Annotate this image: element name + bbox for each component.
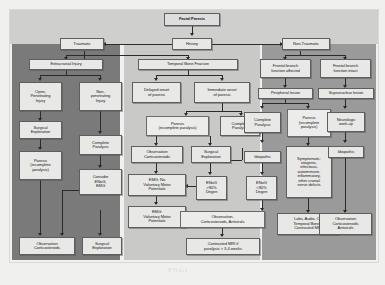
node-surgical-exploration-3[interactable]: Surgical Exploration	[191, 146, 231, 163]
node-supranuclear-lesion[interactable]: Supranuclear lesion	[318, 88, 374, 99]
node-enog-high-degen[interactable]: ENoG >90% Degen	[196, 176, 227, 200]
watermark: PNGI	[168, 266, 188, 274]
node-paresis-incomplete-3[interactable]: Paresis (incomplete paralysis)	[287, 109, 331, 137]
node-emg-voluntary[interactable]: EMG: Voluntary Motor Potentials	[128, 206, 186, 228]
arrow-nonpen-complete	[98, 131, 102, 134]
node-frontal-branch-intact[interactable]: Frontal branch function intact	[320, 59, 371, 78]
arrow-neuro-idiopathic2	[343, 140, 347, 143]
edge-immediate-paresis	[222, 103, 223, 111]
edge-nonpen-complete	[100, 111, 101, 133]
node-observation-corticosteroids-antivirals-1[interactable]: Observation, Corticosteroids, Antivirals	[180, 211, 265, 228]
edge-extracranial-stem	[66, 70, 67, 75]
node-extracranial-injury[interactable]: Extracranial Injury	[29, 59, 103, 70]
edge-nontraumatic-split	[285, 55, 345, 56]
node-history[interactable]: History	[172, 38, 212, 50]
edge-enoghigh-up-v	[242, 148, 243, 160]
node-idiopathic-2[interactable]: Idiopathic	[328, 146, 364, 158]
arrow-enog-high	[208, 172, 212, 175]
node-symptomatic-causes[interactable]: Symptomatic: otogenic, infectious, autoi…	[286, 146, 332, 198]
node-open-penetrating[interactable]: Open, Penetrating Injury	[19, 82, 62, 111]
node-paresis-incomplete-2[interactable]: Paresis (incomplete paralysis)	[146, 116, 209, 136]
edge-history-traumatic	[104, 44, 172, 45]
arrow-complete-paralysis-3	[260, 106, 264, 109]
edge-idiopathic2-obs4	[345, 158, 346, 212]
node-non-traumatic[interactable]: Non-Traumatic	[282, 38, 330, 50]
arrow-obs3-mri	[220, 234, 224, 237]
node-observation-corticosteroids-2[interactable]: Observation Corticosteroids	[131, 146, 183, 163]
node-temporal-bone-fracture[interactable]: Temporal Bone Fracture	[138, 59, 238, 70]
edge-paresis-obs	[40, 180, 41, 235]
arrow-consider-obs	[60, 233, 64, 236]
edge-temporal-split	[156, 75, 222, 76]
arrow-idiopathic1-enoglow	[260, 172, 264, 175]
edge-peripheral-split	[262, 103, 308, 104]
node-delayed-onset[interactable]: Delayed onset of paresis	[132, 82, 181, 103]
node-surgical-exploration-2[interactable]: Surgical Exploration	[82, 237, 122, 255]
edge-history-nontraumatic	[212, 44, 282, 45]
node-observation-corticosteroids-1[interactable]: Observation Corticosteroids	[19, 237, 75, 255]
arrow-root-history	[190, 33, 194, 36]
node-traumatic[interactable]: Traumatic	[60, 38, 104, 50]
arrow-paresis-obs	[38, 233, 42, 236]
node-immediate-onset[interactable]: Immediate onset of paresis	[194, 82, 250, 103]
arrow-immediate-onset	[220, 78, 224, 81]
arrow-open-penetrating	[38, 78, 42, 81]
edge-consider-left-drop	[62, 190, 63, 235]
arrow-emgno-emgvol	[154, 202, 158, 205]
arrow-complete3-idiopathic1	[260, 140, 264, 143]
edge-immediate-split	[186, 111, 241, 112]
node-neurologic-workup[interactable]: Neurologic work-up	[327, 112, 365, 132]
node-surgical-exploration-1[interactable]: Surgical Exploration	[19, 121, 62, 139]
node-facial-paresis[interactable]: Facial Paresis	[164, 13, 220, 26]
arrow-delayed-onset	[154, 78, 158, 81]
node-idiopathic-1[interactable]: Idiopathic	[244, 151, 281, 163]
edge-consider-surgical	[100, 210, 101, 235]
edge-peripheral-stem	[285, 99, 286, 103]
node-consider-enog-emg[interactable]: Consider ENoG, EMG	[79, 169, 122, 195]
node-frontal-branch-affected[interactable]: Frontal branch function affected	[260, 59, 311, 78]
node-complete-paralysis-3[interactable]: Complete Paralysis	[244, 112, 281, 133]
edge-temporal-stem	[188, 70, 189, 75]
arrow-complete-consider	[98, 165, 102, 168]
node-contrasted-mri[interactable]: Contrasted MRI if paralysis > 3-4 weeks	[186, 238, 260, 255]
node-emg-no-voluntary[interactable]: EMG: No Voluntary Motor Potentials	[128, 174, 186, 196]
arrow-consider-surgical	[98, 233, 102, 236]
edge-traumatic-split	[66, 55, 188, 56]
node-peripheral-lesion[interactable]: Peripheral lesion	[258, 88, 313, 99]
arrow-non-penetrating	[98, 78, 102, 81]
arrow-supranuclear-neuro	[343, 106, 347, 109]
node-paresis-incomplete-1[interactable]: Paresis (incomplete paralysis)	[19, 151, 62, 180]
node-complete-paralysis-1[interactable]: Complete Paralysis	[79, 135, 122, 155]
node-enog-low-degen[interactable]: ENoG <90% Degen	[246, 176, 277, 200]
arrow-surgical-paresis	[38, 147, 42, 150]
node-observation-corticosteroids-antivirals-2[interactable]: Observation Corticosteroids Antivirals	[319, 213, 372, 235]
facial-paresis-flowchart: Facial Paresis History Traumatic Non-Tra…	[0, 0, 385, 285]
edge-extracranial-split	[40, 75, 100, 76]
node-non-penetrating[interactable]: Non- penetrating Injury	[79, 82, 122, 111]
